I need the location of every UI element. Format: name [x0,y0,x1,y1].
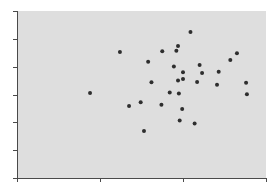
data-point [200,71,204,75]
data-point [180,107,184,111]
data-point [127,104,131,108]
data-point [176,79,180,83]
data-point [181,70,185,74]
data-point [245,92,249,96]
data-point [217,70,221,74]
data-point [228,58,232,62]
data-point [160,49,164,53]
plot-area [18,11,266,178]
data-point [149,80,153,84]
data-point [159,103,163,107]
y-axis-ticks [13,12,17,179]
data-point [139,100,143,104]
data-point [193,121,197,125]
data-point [215,83,219,87]
data-point [177,91,181,95]
scatter-chart [0,0,278,193]
data-point [181,77,185,81]
data-point [146,60,150,64]
data-point [235,51,239,55]
data-point [244,81,248,85]
data-point [178,118,182,122]
data-point [174,49,178,53]
data-point [188,30,192,34]
data-point [168,91,172,95]
data-point [198,63,202,67]
data-point [88,91,92,95]
data-point [195,80,199,84]
data-point [118,50,122,54]
data-point [142,129,146,133]
data-point [172,64,176,68]
data-point [176,44,180,48]
